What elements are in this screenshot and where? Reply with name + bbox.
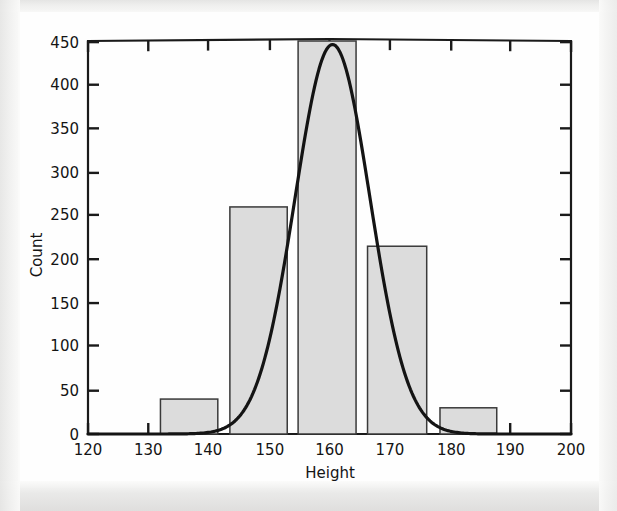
y-axis-ticks-right: [560, 42, 571, 434]
histogram-figure: 050100150200250300350400450 120130140150…: [0, 0, 617, 511]
y-tick-label: 200: [50, 251, 79, 269]
x-axis-tick-labels: 120130140150160170180190200: [74, 441, 586, 459]
page-canvas: 050100150200250300350400450 120130140150…: [0, 0, 617, 511]
y-tick-label: 300: [50, 164, 79, 182]
x-tick-label: 130: [134, 441, 163, 459]
x-tick-label: 140: [194, 441, 223, 459]
y-tick-label: 50: [60, 382, 79, 400]
histogram-bar: [160, 399, 217, 434]
y-tick-label: 450: [50, 34, 79, 52]
x-tick-label: 180: [437, 441, 466, 459]
y-axis-title: Count: [28, 233, 46, 278]
chart-canvas: 050100150200250300350400450 120130140150…: [0, 0, 617, 511]
x-tick-label: 150: [256, 441, 285, 459]
y-tick-label: 400: [50, 76, 79, 94]
x-axis-title: Height: [305, 464, 355, 482]
histogram-bar: [230, 207, 287, 434]
x-tick-label: 200: [557, 441, 586, 459]
x-tick-label: 160: [315, 441, 344, 459]
y-tick-label: 350: [50, 120, 79, 138]
y-axis-tick-labels: 050100150200250300350400450: [50, 34, 79, 444]
y-tick-label: 150: [50, 295, 79, 313]
y-tick-label: 250: [50, 206, 79, 224]
histogram-bar: [298, 41, 356, 434]
histogram-bars: [160, 41, 496, 434]
x-tick-label: 170: [376, 441, 405, 459]
y-axis-ticks: [88, 42, 99, 434]
y-tick-label: 100: [50, 337, 79, 355]
x-tick-label: 120: [74, 441, 103, 459]
x-tick-label: 190: [496, 441, 525, 459]
